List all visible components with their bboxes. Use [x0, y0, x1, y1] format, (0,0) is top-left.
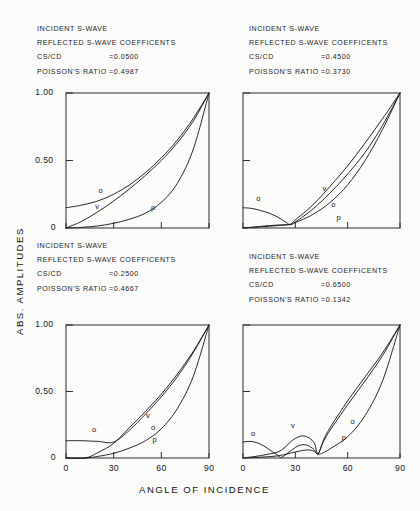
- curve-o: [66, 325, 209, 443]
- plot-frame-bottom-left: [66, 325, 209, 458]
- curve-o: [243, 93, 400, 225]
- curve-p: [66, 93, 209, 228]
- plot-frame-top-left: [66, 93, 209, 228]
- curve-o: [243, 325, 400, 457]
- curve-p: [243, 93, 400, 228]
- curve-o: [66, 93, 209, 208]
- plot-canvas: [0, 0, 420, 511]
- curve-p: [243, 325, 400, 458]
- curve-v: [243, 325, 400, 458]
- curve-p: [66, 325, 209, 458]
- plot-frame-top-right: [243, 93, 400, 228]
- curve-v: [66, 325, 209, 458]
- curve-v: [243, 93, 400, 228]
- curve-v: [66, 93, 209, 228]
- figure-root: ABS. AMPLITUDES ANGLE OF INCIDENCE INCID…: [0, 0, 420, 511]
- plot-frame-bottom-right: [243, 325, 400, 458]
